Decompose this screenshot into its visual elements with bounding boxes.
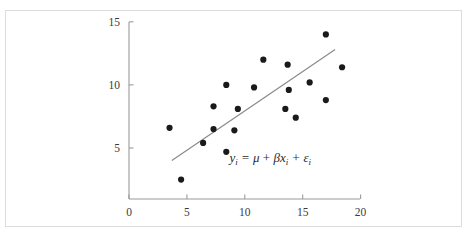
x-tick-label-20: 20 (355, 206, 367, 218)
data-point (293, 115, 299, 121)
x-axis-tick-labels: 05101520 (126, 206, 366, 218)
x-tick-label-0: 0 (126, 206, 132, 218)
data-point (285, 62, 291, 68)
figure-container: 05101520 51015 yi = μ + βxi + εi (0, 0, 469, 238)
equation-label: yi = μ + βxi + εi (227, 150, 311, 167)
data-point (166, 125, 172, 131)
y-tick-label-10: 10 (109, 79, 121, 91)
x-tick-label-5: 5 (184, 206, 190, 218)
y-tick-label-15: 15 (109, 16, 121, 28)
data-point (339, 64, 345, 70)
data-point (200, 140, 206, 146)
data-point (223, 149, 229, 155)
data-point (231, 127, 237, 133)
y-tick-label-5: 5 (114, 142, 120, 154)
data-point (307, 79, 313, 85)
data-point (210, 103, 216, 109)
scatter-plot: 05101520 51015 yi = μ + βxi + εi (0, 0, 469, 238)
data-point (251, 84, 257, 90)
data-point (286, 87, 292, 93)
y-axis-tick-labels: 51015 (109, 16, 121, 154)
fit-line (172, 50, 335, 161)
data-point (235, 106, 241, 112)
data-point (223, 82, 229, 88)
regression-line (172, 50, 335, 161)
data-point (323, 31, 329, 37)
x-tick-label-15: 15 (297, 206, 309, 218)
data-point (282, 106, 288, 112)
x-tick-label-10: 10 (239, 206, 251, 218)
data-point (210, 126, 216, 132)
data-point (178, 176, 184, 182)
data-point (323, 97, 329, 103)
data-point (260, 57, 266, 63)
equation-annotation: yi = μ + βxi + εi (227, 150, 311, 167)
